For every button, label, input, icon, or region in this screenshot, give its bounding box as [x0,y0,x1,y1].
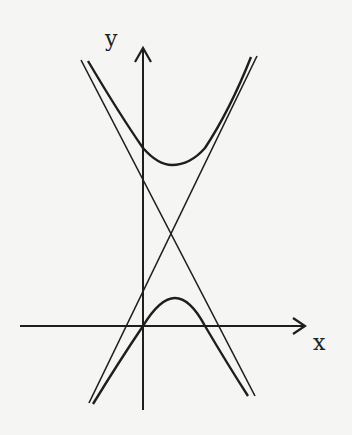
hyperbola-diagram: y x [0,0,352,435]
y-axis-label: y [105,26,117,51]
upper-branch [88,57,251,165]
lower-branch [93,298,248,404]
x-axis-label: x [313,330,325,355]
diagram-svg [0,0,352,435]
asymptote-1 [81,60,255,396]
